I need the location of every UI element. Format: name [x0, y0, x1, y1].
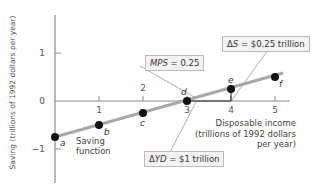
x-tick-1: 1 — [96, 105, 102, 115]
label-f: f — [279, 79, 284, 89]
x-tick-2: 2 — [140, 83, 146, 93]
label-d: d — [181, 87, 187, 97]
y-tick-1: 1 — [39, 48, 45, 58]
mps-annotation: MPS = 0.25 — [145, 55, 204, 71]
x-tick-4: 4 — [228, 105, 234, 115]
label-e: e — [228, 75, 234, 85]
saving-function-label-1: Saving — [76, 136, 105, 146]
x-tick-5: 5 — [272, 105, 278, 115]
x-axis-label: Disposable income (trillions of 1992 dol… — [195, 118, 296, 150]
label-a: a — [60, 138, 66, 148]
y-tick-0: 0 — [39, 96, 45, 106]
point-a — [51, 133, 59, 141]
point-e — [227, 85, 235, 93]
point-f — [271, 73, 279, 81]
point-c — [139, 109, 147, 117]
point-b — [95, 121, 103, 129]
label-b: b — [104, 127, 110, 137]
x-tick-3: 3 — [184, 105, 190, 115]
delta-yd-annotation: ΔYD = $1 trillion — [144, 151, 224, 167]
point-d — [183, 97, 191, 105]
label-c: c — [140, 118, 145, 128]
delta-s-annotation: ΔS = $0.25 trillion — [222, 36, 310, 52]
y-tick-minus1: −1 — [32, 144, 45, 154]
saving-function-label-2: function — [76, 146, 111, 156]
